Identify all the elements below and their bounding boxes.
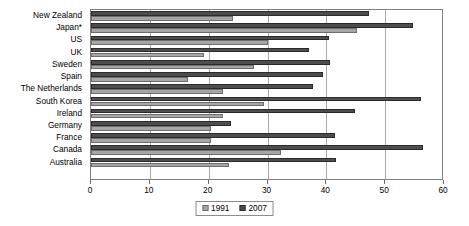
bar-1991	[91, 126, 211, 131]
bar-group	[91, 108, 442, 120]
y-axis-label: The Netherlands	[21, 82, 82, 94]
y-axis-label: Japan*	[56, 21, 82, 33]
x-tick-mark	[443, 180, 444, 184]
legend-swatch-1991-icon	[202, 205, 208, 211]
bar-2007	[91, 145, 423, 150]
chart-legend: 1991 2007	[195, 201, 274, 216]
bar-1991	[91, 77, 188, 82]
x-tick-label: 10	[144, 185, 153, 195]
x-tick-mark	[325, 180, 326, 184]
x-tick-label: 40	[321, 185, 330, 195]
x-tick-label: 60	[438, 185, 447, 195]
x-tick-label: 30	[262, 185, 271, 195]
x-tick-mark	[267, 180, 268, 184]
y-axis-category-labels: New ZealandJapan*USUKSwedenSpainThe Neth…	[0, 9, 86, 180]
y-axis-label: Germany	[48, 119, 82, 131]
bar-group	[91, 47, 442, 59]
bar-1991	[91, 102, 264, 107]
bar-1991	[91, 89, 223, 94]
bar-chart: New ZealandJapan*USUKSwedenSpainThe Neth…	[0, 0, 469, 226]
bar-1991	[91, 53, 204, 58]
bar-1991	[91, 40, 268, 45]
x-tick-mark	[384, 180, 385, 184]
bar-group	[91, 144, 442, 156]
bar-group	[91, 10, 442, 22]
y-axis-label: Australia	[50, 156, 82, 168]
x-tick-mark	[208, 180, 209, 184]
bar-2007	[91, 60, 330, 65]
bar-group	[91, 157, 442, 169]
y-axis-label: Canada	[53, 143, 82, 155]
bar-group	[91, 120, 442, 132]
plot-area	[90, 9, 443, 180]
bar-1991	[91, 28, 357, 33]
x-axis: 0102030405060	[90, 180, 443, 200]
y-axis-label: France	[56, 131, 82, 143]
bar-2007	[91, 48, 309, 53]
legend-entry-1991: 1991	[202, 203, 229, 213]
bar-group	[91, 34, 442, 46]
bar-group	[91, 132, 442, 144]
y-axis-label: Spain	[61, 70, 82, 82]
x-tick-label: 20	[203, 185, 212, 195]
bar-2007	[91, 121, 231, 126]
bar-2007	[91, 36, 329, 41]
bar-1991	[91, 138, 211, 143]
bar-series-group	[91, 10, 442, 179]
bar-2007	[91, 97, 421, 102]
bar-2007	[91, 23, 413, 28]
y-axis-label: New Zealand	[33, 9, 82, 21]
y-axis-label: US	[70, 33, 82, 45]
bar-2007	[91, 11, 369, 16]
bar-1991	[91, 16, 233, 21]
bar-1991	[91, 150, 281, 155]
legend-entry-2007: 2007	[240, 203, 267, 213]
bar-group	[91, 22, 442, 34]
bar-group	[91, 83, 442, 95]
legend-swatch-2007-icon	[240, 205, 246, 211]
bar-group	[91, 96, 442, 108]
legend-label-1991: 1991	[211, 203, 229, 213]
bar-2007	[91, 133, 335, 138]
bar-1991	[91, 114, 223, 119]
bar-2007	[91, 158, 336, 163]
bar-2007	[91, 84, 313, 89]
bar-2007	[91, 72, 323, 77]
bar-group	[91, 59, 442, 71]
bar-group	[91, 71, 442, 83]
y-axis-label: UK	[70, 46, 82, 58]
legend-label-2007: 2007	[249, 203, 267, 213]
y-axis-label: Ireland	[57, 107, 82, 119]
y-axis-label: Sweden	[52, 58, 82, 70]
bar-1991	[91, 65, 254, 70]
x-tick-mark	[149, 180, 150, 184]
x-tick-mark	[90, 180, 91, 184]
bar-2007	[91, 109, 355, 114]
bar-1991	[91, 163, 229, 168]
x-tick-label: 50	[380, 185, 389, 195]
x-tick-label: 0	[88, 185, 93, 195]
y-axis-label: South Korea	[36, 95, 82, 107]
